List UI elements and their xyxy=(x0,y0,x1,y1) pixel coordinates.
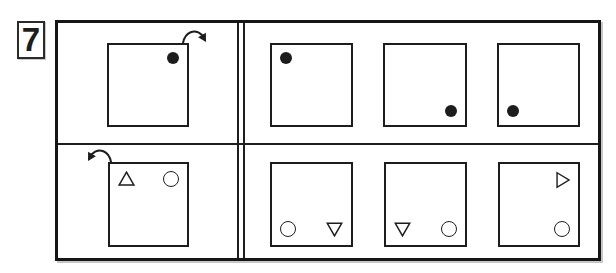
filled-dot-shape xyxy=(445,105,457,117)
row1-option-3-square[interactable] xyxy=(497,43,580,127)
row1-stimulus-square xyxy=(107,43,189,127)
triangle-up-shape xyxy=(118,171,135,186)
row2-option-2-square[interactable] xyxy=(384,162,467,247)
triangle-right-shape xyxy=(556,171,570,189)
row1-option-2-square[interactable] xyxy=(383,43,467,127)
stimulus-answer-divider-inner xyxy=(243,23,245,258)
circle-shape xyxy=(280,221,296,237)
circle-shape xyxy=(163,171,179,187)
triangle-down-shape xyxy=(394,222,411,237)
row1-option-1-square[interactable] xyxy=(270,43,353,127)
triangle-down-shape xyxy=(326,222,343,237)
row2-option-3-square[interactable] xyxy=(498,162,580,247)
filled-dot-shape xyxy=(280,52,292,64)
stimulus-answer-divider-outer xyxy=(237,23,239,258)
filled-dot-shape xyxy=(167,52,179,64)
puzzle-frame xyxy=(55,20,601,261)
row-divider xyxy=(58,143,598,145)
item-number-badge: 7 xyxy=(17,21,45,59)
circle-shape xyxy=(554,221,570,237)
row2-stimulus-square xyxy=(108,162,189,247)
circle-shape xyxy=(441,221,457,237)
item-number: 7 xyxy=(22,23,40,56)
row2-option-1-square[interactable] xyxy=(270,162,353,247)
filled-dot-shape xyxy=(507,105,519,117)
